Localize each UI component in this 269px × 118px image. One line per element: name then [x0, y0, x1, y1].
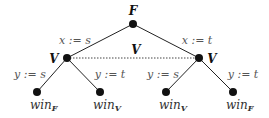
left-node: [63, 54, 71, 62]
root-node: [129, 20, 137, 28]
leaf-node: [96, 88, 104, 96]
root-player-label: F: [128, 4, 139, 18]
game-tree: F x := s x := t V V V y := s y := t y :=…: [0, 0, 269, 118]
edge-label: x := s: [59, 34, 91, 47]
leaf-label: winV: [93, 98, 122, 113]
edge-label: y := t: [227, 68, 259, 81]
edge-label: y := s: [146, 68, 179, 81]
right-player-label: V: [207, 52, 218, 66]
leaf-label: winF: [30, 98, 59, 113]
leaf-node: [33, 88, 41, 96]
leaf-node: [229, 88, 237, 96]
leaf-label: winV: [159, 98, 188, 113]
edge-label: y := t: [94, 68, 126, 81]
leaf-label: winF: [226, 98, 255, 113]
left-player-label: V: [49, 52, 60, 66]
leaf-node: [162, 88, 170, 96]
info-set-label: V: [131, 43, 142, 57]
right-node: [195, 54, 203, 62]
edge-label: y := s: [13, 68, 46, 81]
edge-label: x := t: [182, 34, 213, 47]
